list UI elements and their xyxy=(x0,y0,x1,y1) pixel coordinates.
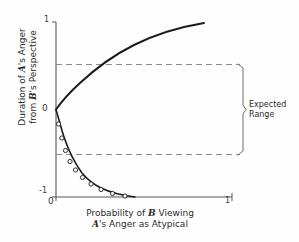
y-axis-title: Duration of A's Anger from B's Perspecti… xyxy=(17,2,39,152)
y-axis-title-line-2: from B's Perspective xyxy=(28,2,39,152)
y-axis-tick-label-zero: 0 xyxy=(42,103,48,113)
data-marker xyxy=(123,194,127,198)
data-marker xyxy=(73,168,77,172)
x-axis-tick-label-zero: 0 xyxy=(48,196,54,206)
expected-range-annotation: Expected Range xyxy=(249,100,297,120)
data-marker xyxy=(89,182,93,186)
lower-branch-markers xyxy=(57,122,128,198)
x-axis-title: Probability of B Viewing A's Anger as At… xyxy=(40,208,240,230)
data-marker xyxy=(63,148,67,152)
data-marker xyxy=(99,187,103,191)
y-axis-tick-label-one: 1 xyxy=(44,15,49,24)
data-marker xyxy=(60,136,64,140)
chart-canvas xyxy=(0,0,299,242)
y-axis-tick-label-negative-one: -1 xyxy=(39,186,47,195)
y-axis-title-line-1: Duration of A's Anger xyxy=(17,2,28,152)
expected-range-brace xyxy=(238,64,246,155)
x-axis-title-line-1: Probability of B Viewing xyxy=(40,208,240,219)
data-marker xyxy=(57,122,61,126)
expected-range-label-line-2: Range xyxy=(249,110,297,120)
chart-figure: 1 0 -1 0 1 Duration of A's Anger from B'… xyxy=(0,0,299,242)
lower-branch-curve xyxy=(56,110,135,198)
x-axis-tick-label-one: 1 xyxy=(225,196,230,205)
expected-range-label-line-1: Expected xyxy=(249,100,297,110)
upper-branch-curve xyxy=(56,23,204,110)
data-marker xyxy=(68,159,72,163)
data-marker xyxy=(110,191,114,195)
x-axis-title-line-2: A's Anger as Atypical xyxy=(40,219,240,230)
data-marker xyxy=(80,175,84,179)
